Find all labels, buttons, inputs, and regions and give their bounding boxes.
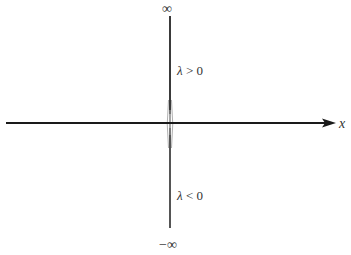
negative-infinity-label: −∞: [159, 238, 177, 252]
positive-infinity-label: ∞: [162, 2, 172, 16]
diagram-canvas: [0, 0, 351, 255]
delta-spike-diagram: ∞ λ > 0 x λ < 0 −∞: [0, 0, 351, 255]
x-axis-label: x: [339, 117, 345, 131]
lambda-negative-label: λ < 0: [177, 189, 203, 202]
relation-text: > 0: [183, 63, 203, 78]
relation-text: < 0: [183, 188, 203, 203]
lambda-positive-label: λ > 0: [177, 64, 203, 77]
